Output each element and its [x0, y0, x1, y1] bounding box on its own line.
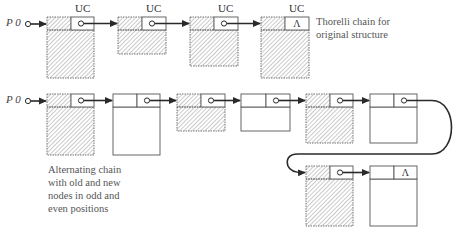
- node-data-cell: [47, 17, 71, 30]
- pointer-origin-icon: [337, 170, 342, 175]
- node-tag-uc-4: UC: [289, 2, 304, 14]
- pointer-origin-icon: [401, 98, 406, 103]
- node-data-cell: [113, 94, 137, 107]
- pointer-origin-icon: [208, 98, 213, 103]
- node-data-cell: [190, 17, 214, 30]
- null-pointer-lambda: Λ: [293, 18, 301, 29]
- node-tag-uc-3: UC: [218, 2, 233, 14]
- top-caption-line-2: original structure: [316, 28, 390, 41]
- bottom-node-1-old: [47, 94, 94, 155]
- bottom-node-4-new: [241, 94, 290, 131]
- node-data-cell: [306, 166, 330, 179]
- top-caption-line-1: Thorelli chain for: [316, 15, 390, 28]
- top-node-4-old: Λ: [261, 17, 309, 78]
- pointer-origin-icon: [337, 98, 342, 103]
- pointer-origin-icon: [149, 21, 154, 26]
- bottom-caption-line-2: with old and new: [48, 176, 121, 189]
- bottom-caption-line-3: nodes in odd and: [48, 189, 121, 202]
- top-node-2-old: [118, 17, 166, 54]
- top-node-3-old: [190, 17, 238, 66]
- node-data-cell: [47, 94, 71, 107]
- bottom-caption-line-4: even positions: [48, 202, 121, 215]
- pointer-origin-icon: [78, 21, 83, 26]
- pointer-origin-icon: [78, 98, 83, 103]
- node-data-cell: [241, 94, 266, 107]
- pointer-origin-icon: [273, 98, 278, 103]
- top-node-1-old: [47, 17, 94, 78]
- bottom-node-5-old: [306, 94, 353, 143]
- node-data-cell: [306, 94, 330, 107]
- node-data-cell: [370, 166, 394, 179]
- node-data-cell: [177, 94, 201, 107]
- top-start-pointer-label: P 0: [6, 16, 21, 28]
- bottom-caption: Alternating chain with old and new nodes…: [48, 163, 121, 215]
- top-start-pointer-icon: [25, 21, 30, 26]
- node-data-cell: [261, 17, 285, 30]
- null-pointer-lambda: Λ: [402, 167, 410, 178]
- pointer-origin-icon: [144, 98, 149, 103]
- bottom-node-2-new: [113, 94, 160, 155]
- node-tag-uc-2: UC: [146, 2, 161, 14]
- node-data-cell: [370, 94, 394, 107]
- node-data-cell: [118, 17, 142, 30]
- node-tag-uc-1: UC: [75, 2, 90, 14]
- bottom-node-3-old: [177, 94, 225, 131]
- pointer-origin-icon: [221, 21, 226, 26]
- bottom-node-8-new: Λ: [370, 166, 417, 226]
- bottom-start-pointer-label: P 0: [6, 93, 21, 105]
- bottom-start-pointer-icon: [25, 98, 30, 103]
- bottom-node-6-new: [370, 94, 417, 143]
- bottom-node-7-old: [306, 166, 353, 226]
- bottom-caption-line-1: Alternating chain: [48, 163, 121, 176]
- top-caption: Thorelli chain for original structure: [316, 15, 390, 41]
